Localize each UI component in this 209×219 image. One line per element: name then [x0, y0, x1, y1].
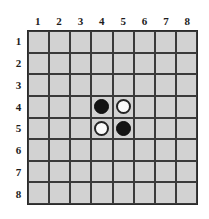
othello-board-figure: 1 2 3 4 5 6 7 8 1 2 3 4 5 6 7 8: [0, 0, 209, 219]
board-cell[interactable]: [50, 140, 69, 160]
board-cell[interactable]: [156, 97, 175, 117]
board-cell[interactable]: [114, 75, 133, 95]
row-label-7: 7: [12, 161, 25, 183]
row-label-2: 2: [12, 52, 25, 74]
board-cell[interactable]: [71, 97, 90, 117]
column-label-2: 2: [48, 14, 69, 29]
board-cell[interactable]: [114, 183, 133, 203]
column-label-3: 3: [70, 14, 91, 29]
board-cell[interactable]: [71, 119, 90, 139]
board-cell[interactable]: [156, 183, 175, 203]
board-cell[interactable]: [114, 140, 133, 160]
column-label-4: 4: [91, 14, 112, 29]
column-label-1: 1: [27, 14, 48, 29]
row-label-column: 1 2 3 4 5 6 7 8: [12, 30, 25, 205]
board-cell[interactable]: [177, 97, 196, 117]
board-cell[interactable]: [71, 162, 90, 182]
board-cell[interactable]: [50, 32, 69, 52]
board-cell[interactable]: [50, 97, 69, 117]
board-cell[interactable]: [177, 119, 196, 139]
board-cell[interactable]: [71, 140, 90, 160]
board-cell[interactable]: [71, 75, 90, 95]
board-cell[interactable]: [177, 75, 196, 95]
white-stone: [116, 99, 131, 114]
board-cell[interactable]: [114, 119, 133, 139]
board-cell[interactable]: [71, 32, 90, 52]
board-cell[interactable]: [92, 119, 111, 139]
board-cell[interactable]: [156, 32, 175, 52]
board-cell[interactable]: [29, 119, 48, 139]
board-cell[interactable]: [135, 32, 154, 52]
board-cell[interactable]: [50, 75, 69, 95]
board-cell[interactable]: [92, 183, 111, 203]
board-cell[interactable]: [177, 32, 196, 52]
black-stone: [116, 121, 131, 136]
board-cell[interactable]: [177, 183, 196, 203]
board-cell[interactable]: [71, 183, 90, 203]
board-cell[interactable]: [92, 32, 111, 52]
board-cell[interactable]: [177, 54, 196, 74]
board-cell[interactable]: [156, 75, 175, 95]
board-cell[interactable]: [156, 119, 175, 139]
column-label-5: 5: [113, 14, 134, 29]
board-cell[interactable]: [114, 32, 133, 52]
column-label-6: 6: [134, 14, 155, 29]
white-stone: [94, 121, 109, 136]
row-label-3: 3: [12, 74, 25, 96]
row-label-5: 5: [12, 118, 25, 140]
board-cell[interactable]: [50, 162, 69, 182]
board-cell[interactable]: [114, 162, 133, 182]
board-cell[interactable]: [71, 54, 90, 74]
board-cell[interactable]: [29, 162, 48, 182]
board-grid: [27, 30, 198, 205]
board-cell[interactable]: [92, 162, 111, 182]
board-cell[interactable]: [177, 140, 196, 160]
board-cell[interactable]: [29, 54, 48, 74]
board-cell[interactable]: [50, 183, 69, 203]
board-cell[interactable]: [135, 75, 154, 95]
board-cell[interactable]: [92, 75, 111, 95]
board-cell[interactable]: [114, 54, 133, 74]
board-cell[interactable]: [92, 140, 111, 160]
board-cell[interactable]: [135, 97, 154, 117]
black-stone: [94, 99, 109, 114]
board-cell[interactable]: [156, 140, 175, 160]
board-cell[interactable]: [92, 97, 111, 117]
board-cell[interactable]: [29, 32, 48, 52]
row-label-6: 6: [12, 139, 25, 161]
column-label-7: 7: [155, 14, 176, 29]
board-cell[interactable]: [135, 54, 154, 74]
board-cell[interactable]: [50, 119, 69, 139]
row-label-4: 4: [12, 96, 25, 118]
board-cell[interactable]: [177, 162, 196, 182]
board-cell[interactable]: [135, 119, 154, 139]
board-cell[interactable]: [135, 140, 154, 160]
board-cell[interactable]: [135, 162, 154, 182]
board-cell[interactable]: [156, 54, 175, 74]
board-cell[interactable]: [29, 75, 48, 95]
column-label-8: 8: [177, 14, 198, 29]
board-cell[interactable]: [29, 183, 48, 203]
column-label-row: 1 2 3 4 5 6 7 8: [27, 14, 198, 29]
board-cell[interactable]: [50, 54, 69, 74]
board-cell[interactable]: [29, 97, 48, 117]
board-cell[interactable]: [156, 162, 175, 182]
board-cell[interactable]: [114, 97, 133, 117]
row-label-1: 1: [12, 30, 25, 52]
board-cell[interactable]: [29, 140, 48, 160]
board-cell[interactable]: [92, 54, 111, 74]
board-cell[interactable]: [135, 183, 154, 203]
row-label-8: 8: [12, 183, 25, 205]
